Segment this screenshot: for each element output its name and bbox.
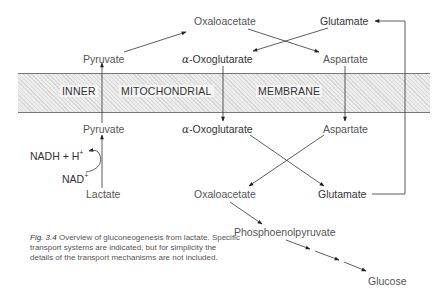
label-pyruvate-matrix: Pyruvate <box>83 123 124 135</box>
label-oxaloacetate-matrix: Oxaloacetate <box>194 188 256 200</box>
figure-caption: Fig. 3.4 Overview of gluconeogenesis fro… <box>30 233 240 263</box>
label-glutamate-cytosol: Glutamate <box>320 15 368 27</box>
label-oxaloacetate-cytosol: Oxaloacetate <box>194 15 256 27</box>
label-glutamate-matrix: Glutamate <box>318 188 366 200</box>
label-oxoglutarate-matrix: α-Oxoglutarate <box>182 123 253 135</box>
label-nad: NAD+ <box>62 170 88 185</box>
label-aspartate-matrix: Aspartate <box>323 123 368 135</box>
caption-text: Overview of gluconeogenesis from lactate… <box>30 233 240 262</box>
label-glucose: Glucose <box>368 275 407 287</box>
label-phosphoenolpyruvate: Phosphoenolpyruvate <box>234 226 336 238</box>
figure-number: Fig. 3.4 <box>30 233 57 242</box>
label-aspartate-cytosol: Aspartate <box>323 53 368 65</box>
label-nadh: NADH + H+ <box>30 147 83 162</box>
label-oxoglutarate-cytosol: α-Oxoglutarate <box>182 53 253 65</box>
label-lactate: Lactate <box>86 188 120 200</box>
label-pyruvate-cytosol: Pyruvate <box>83 53 124 65</box>
